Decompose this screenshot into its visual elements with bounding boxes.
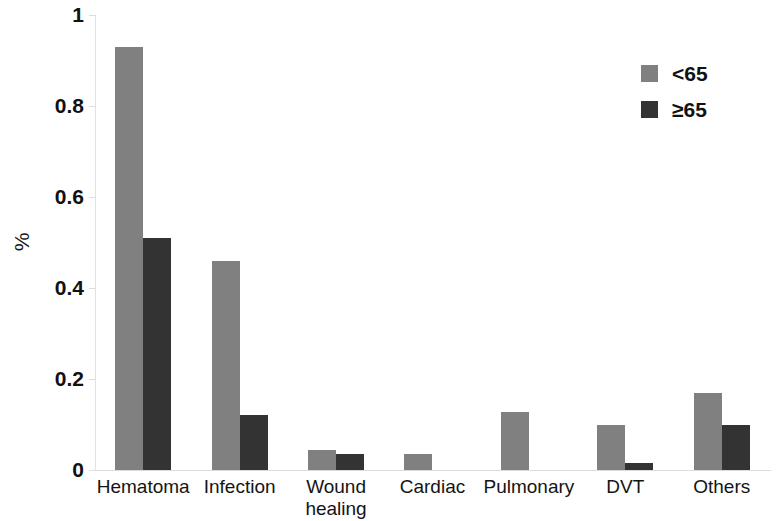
y-axis-tick-label: 0.2: [22, 368, 84, 389]
y-axis-tick-mark: [89, 470, 96, 471]
x-axis-category-labels: HematomaInfectionWound healingCardiacPul…: [95, 476, 771, 521]
y-axis-tick-label: 0.8: [22, 95, 84, 116]
x-axis-category-label: Others: [662, 476, 777, 498]
bar[interactable]: [212, 261, 240, 470]
bar-group: [384, 15, 480, 470]
chart-legend: <65≥65: [641, 55, 771, 127]
legend-label: <65: [672, 63, 708, 84]
bar[interactable]: [404, 454, 432, 470]
bar-group: [191, 15, 287, 470]
y-axis-tick-label: 1: [22, 4, 84, 25]
legend-item[interactable]: ≥65: [641, 91, 771, 127]
bar[interactable]: [240, 415, 268, 470]
y-axis-tick-label: 0.6: [22, 186, 84, 207]
bar[interactable]: [597, 425, 625, 471]
bar-group: [288, 15, 384, 470]
bar-group: [95, 15, 191, 470]
bar[interactable]: [115, 47, 143, 470]
bar[interactable]: [308, 450, 336, 470]
bar[interactable]: [625, 463, 653, 470]
legend-color-swatch: [641, 65, 658, 82]
y-axis-tick-label: 0: [22, 459, 84, 480]
bar[interactable]: [694, 393, 722, 470]
y-axis-tick-labels: 00.20.40.60.81: [22, 0, 84, 521]
bar[interactable]: [722, 425, 750, 471]
y-axis-tick-label: 0.4: [22, 277, 84, 298]
legend-label: ≥65: [672, 99, 707, 120]
legend-item[interactable]: <65: [641, 55, 771, 91]
x-axis-line: [95, 470, 771, 471]
bar-group: [481, 15, 577, 470]
bar-chart: % 00.20.40.60.81 HematomaInfectionWound …: [0, 0, 777, 521]
legend-color-swatch: [641, 101, 658, 118]
bar[interactable]: [143, 238, 171, 470]
bar[interactable]: [501, 412, 529, 470]
bar[interactable]: [336, 454, 364, 470]
